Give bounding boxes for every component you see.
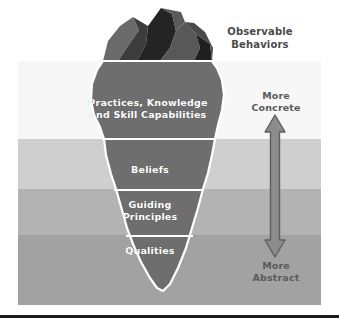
guiding-line-2: Principles bbox=[100, 211, 200, 223]
iceberg-label-guiding-principles: Guiding Principles bbox=[100, 199, 200, 223]
concrete-abstract-arrow bbox=[265, 115, 285, 257]
iceberg-diagram: Observable Behaviors More Concrete More … bbox=[0, 0, 339, 325]
more-concrete-line-1: More bbox=[230, 90, 322, 102]
qualities-line-1: Qualities bbox=[103, 245, 197, 257]
observable-behaviors-label: Observable Behaviors bbox=[204, 26, 316, 51]
beliefs-line-1: Beliefs bbox=[95, 164, 205, 176]
guiding-line-1: Guiding bbox=[100, 199, 200, 211]
more-abstract-line-2: Abstract bbox=[230, 272, 322, 284]
iceberg-label-beliefs: Beliefs bbox=[95, 164, 205, 176]
observable-line-2: Behaviors bbox=[204, 39, 316, 52]
observable-line-1: Observable bbox=[204, 26, 316, 39]
axis-label-more-concrete: More Concrete bbox=[230, 90, 322, 114]
bottom-divider-rule bbox=[0, 315, 339, 318]
iceberg-label-practices: Practices, Knowledge and Skill Capabilit… bbox=[72, 97, 224, 121]
arrow-double-head-shape bbox=[265, 115, 285, 257]
more-concrete-line-2: Concrete bbox=[230, 102, 322, 114]
practices-line-2: and Skill Capabilities bbox=[72, 109, 224, 121]
iceberg-label-qualities: Qualities bbox=[103, 245, 197, 257]
more-abstract-line-1: More bbox=[230, 260, 322, 272]
axis-label-more-abstract: More Abstract bbox=[230, 260, 322, 284]
practices-line-1: Practices, Knowledge bbox=[72, 97, 224, 109]
iceberg-tip bbox=[103, 8, 213, 61]
